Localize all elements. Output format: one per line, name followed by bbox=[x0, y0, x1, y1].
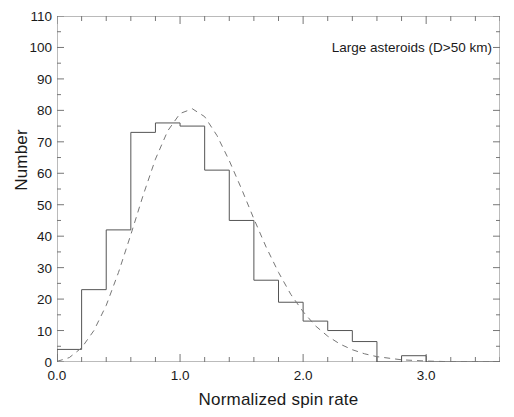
histogram-outline bbox=[57, 123, 500, 362]
clipped-top-caption bbox=[150, 0, 400, 5]
y-axis-title: Number bbox=[12, 90, 32, 230]
y-axis-tick-label: 30 bbox=[18, 260, 52, 275]
chart-annotation: Large asteroids (D>50 km) bbox=[0, 40, 492, 55]
figure-root: 0102030405060708090100110 0.01.02.03.0 N… bbox=[0, 0, 514, 417]
x-axis-tick-label: 3.0 bbox=[406, 368, 446, 383]
y-axis-tick-label: 20 bbox=[18, 292, 52, 307]
plot-area bbox=[57, 16, 500, 362]
clipped-bottom-caption bbox=[120, 409, 450, 417]
y-axis-tick-label: 90 bbox=[18, 71, 52, 86]
chart-svg bbox=[57, 16, 500, 362]
x-axis-tick-label-group: 0.01.02.03.0 bbox=[57, 368, 500, 388]
x-axis-title: Normalized spin rate bbox=[57, 390, 500, 410]
x-axis-tick-label: 1.0 bbox=[160, 368, 200, 383]
x-axis-tick-label: 2.0 bbox=[283, 368, 323, 383]
x-axis-tick-label: 0.0 bbox=[37, 368, 77, 383]
y-axis-tick-label: 10 bbox=[18, 323, 52, 338]
y-axis-tick-label: 110 bbox=[18, 9, 52, 24]
y-axis-tick-label: 40 bbox=[18, 229, 52, 244]
